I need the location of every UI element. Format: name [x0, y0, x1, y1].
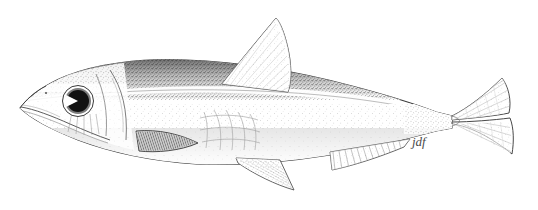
- artist-signature: jdf: [410, 134, 428, 149]
- nostril: [45, 92, 47, 94]
- fish-illustration-svg: jdf: [0, 0, 538, 210]
- signature-text: jdf: [410, 134, 428, 149]
- eye: [63, 86, 94, 117]
- fish-illustration-canvas: jdf fish pen-and-ink stipple drawing lef…: [0, 0, 538, 210]
